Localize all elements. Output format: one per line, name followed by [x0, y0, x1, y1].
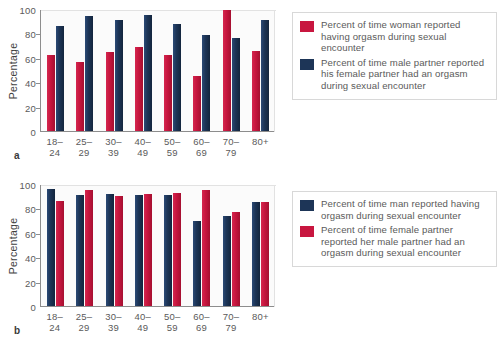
y-axis-tick-mark: [36, 283, 40, 284]
bar-group: [252, 10, 269, 131]
bar-group: [135, 10, 152, 131]
x-axis-tick-label: 18–24: [42, 311, 68, 341]
x-axis-tick-label: 25–29: [71, 136, 97, 166]
bar-group: [135, 185, 152, 306]
y-axis-label-b: Percentage: [6, 185, 20, 307]
panel-letter-a: a: [14, 150, 20, 161]
bar: [85, 16, 93, 131]
bar-group-container-a: [41, 10, 275, 131]
bar: [106, 194, 114, 306]
bar: [173, 193, 181, 307]
y-axis-tick-mark: [36, 34, 40, 35]
legend-item: Percent of time woman reported having or…: [300, 19, 488, 54]
legend-item: Percent of time man reported having orga…: [300, 198, 488, 221]
y-axis-tick-mark: [36, 59, 40, 60]
bar-group: [193, 185, 210, 306]
x-axis-tick-label: 80+: [247, 136, 273, 166]
bar-group-container-b: [41, 185, 275, 306]
x-axis-tick-label: 70–79: [218, 311, 244, 341]
legend-label: Percent of time male partner reported hi…: [321, 57, 488, 92]
x-axis-tick-label: 30–39: [100, 136, 126, 166]
bar: [144, 194, 152, 306]
y-axis-tick-label: 0: [31, 127, 40, 138]
bar-group: [252, 185, 269, 306]
legend-item: Percent of time female partner reported …: [300, 224, 488, 259]
bar: [135, 47, 143, 131]
plot-area-a: 100806040200: [40, 10, 275, 132]
x-axis-tick-label: 30–39: [100, 311, 126, 341]
legend-item: Percent of time male partner reported hi…: [300, 57, 488, 92]
legend-swatch-red-icon: [300, 21, 314, 32]
y-axis-tick-label: 100: [20, 180, 40, 191]
y-axis-tick-mark: [36, 108, 40, 109]
bar: [76, 195, 84, 306]
bar-group: [193, 10, 210, 131]
x-axis-labels-b: 18–2425–2930–3940–4950–5960–6970–7980+: [40, 311, 275, 341]
bar-group: [106, 10, 123, 131]
bar: [193, 76, 201, 131]
bar-group: [47, 10, 64, 131]
y-axis-tick-mark: [36, 234, 40, 235]
x-axis-tick-label: 40–49: [130, 136, 156, 166]
plot-frame-a: [40, 10, 275, 132]
y-axis-label-text-b: Percentage: [7, 218, 19, 275]
bar: [135, 195, 143, 306]
bar: [115, 196, 123, 306]
bar-group: [164, 10, 181, 131]
bar: [173, 24, 181, 131]
y-axis-label-text-a: Percentage: [7, 43, 19, 100]
y-axis-tick-mark: [36, 83, 40, 84]
bar: [47, 55, 55, 131]
y-axis-tick-mark: [36, 258, 40, 259]
bar: [261, 202, 269, 306]
x-axis-tick-label: 80+: [247, 311, 273, 341]
bar: [252, 202, 260, 306]
bar: [193, 221, 201, 306]
bar: [106, 52, 114, 131]
bar: [115, 20, 123, 131]
y-axis-tick-label: 0: [31, 302, 40, 313]
chart-panel-b: Percentage 100806040200 18–2425–2930–394…: [0, 175, 504, 350]
x-axis-tick-label: 40–49: [130, 311, 156, 341]
legend-swatch-red-icon: [300, 226, 314, 237]
legend-label: Percent of time female partner reported …: [321, 224, 488, 259]
bar: [223, 10, 231, 131]
legend-a: Percent of time woman reported having or…: [292, 12, 497, 100]
bar-group: [164, 185, 181, 306]
x-axis-tick-label: 70–79: [218, 136, 244, 166]
chart-panel-a: Percentage 100806040200 18–2425–2930–394…: [0, 0, 504, 175]
x-axis-tick-label: 50–59: [159, 136, 185, 166]
bar-group: [47, 185, 64, 306]
bar: [202, 35, 210, 131]
bar-group: [223, 10, 240, 131]
plot-frame-b: [40, 185, 275, 307]
bar-group: [106, 185, 123, 306]
legend-b: Percent of time man reported having orga…: [292, 191, 497, 267]
bar-group: [76, 10, 93, 131]
x-axis-tick-label: 50–59: [159, 311, 185, 341]
bar: [56, 201, 64, 306]
bar: [144, 15, 152, 131]
y-axis-label-a: Percentage: [6, 10, 20, 132]
y-axis-tick-mark: [36, 209, 40, 210]
bar: [252, 51, 260, 132]
bar: [223, 216, 231, 306]
x-axis-labels-a: 18–2425–2930–3940–4950–5960–6970–7980+: [40, 136, 275, 166]
x-axis-tick-label: 60–69: [189, 136, 215, 166]
bar: [56, 26, 64, 131]
legend-swatch-navy-icon: [300, 200, 314, 211]
legend-label: Percent of time woman reported having or…: [321, 19, 488, 54]
y-axis-tick-label: 100: [20, 5, 40, 16]
bar: [164, 195, 172, 306]
bar-group: [223, 185, 240, 306]
x-axis-tick-label: 18–24: [42, 136, 68, 166]
bar-group: [76, 185, 93, 306]
bar: [202, 190, 210, 306]
panel-letter-b: b: [14, 325, 20, 336]
bar: [47, 189, 55, 306]
plot-area-b: 100806040200: [40, 185, 275, 307]
bar: [232, 212, 240, 306]
x-axis-tick-label: 25–29: [71, 311, 97, 341]
bar: [85, 190, 93, 306]
bar: [76, 62, 84, 132]
